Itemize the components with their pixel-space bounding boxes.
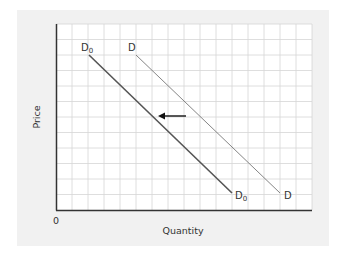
origin-label: 0 (53, 215, 59, 226)
y-axis-label: Price (31, 105, 42, 128)
demand-shift-chart: D0 D D0 D 0 Quantity Price (0, 0, 342, 256)
x-axis-label: Quantity (162, 225, 203, 236)
label-d-bottom: D (284, 190, 292, 201)
label-d-top: D (128, 42, 136, 53)
